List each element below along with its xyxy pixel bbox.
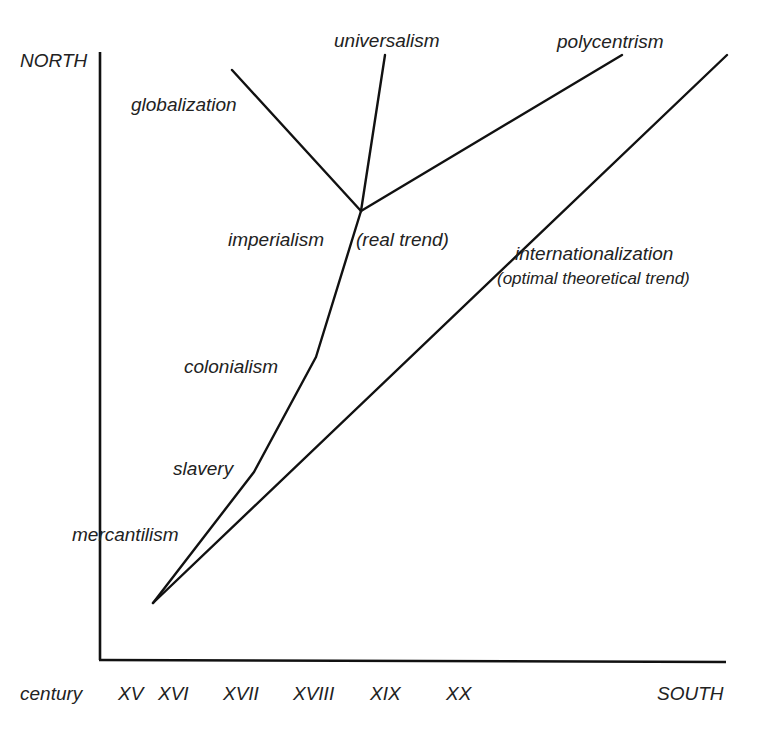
universalism-branch xyxy=(361,55,385,211)
tick-xv: XV xyxy=(117,683,146,704)
tick-xviii: XVIII xyxy=(292,683,335,704)
imperialism-label: imperialism xyxy=(228,229,324,250)
tick-xvi: XVI xyxy=(157,683,189,704)
mercantilism-label: mercantilism xyxy=(72,524,179,545)
south-label: SOUTH xyxy=(657,683,724,704)
tick-xix: XIX xyxy=(369,683,402,704)
polycentrism-branch xyxy=(361,55,622,211)
x-axis-south xyxy=(99,660,726,662)
real-trend-line xyxy=(153,211,361,603)
universalism-label: universalism xyxy=(334,30,440,51)
globalization-label: globalization xyxy=(131,94,237,115)
internationalization-label: internationalization xyxy=(515,243,673,264)
tick-xx: XX xyxy=(445,683,473,704)
century-label: century xyxy=(20,683,84,704)
slavery-label: slavery xyxy=(173,458,235,479)
tick-xvii: XVII xyxy=(222,683,260,704)
north-label: NORTH xyxy=(20,50,87,71)
internationalization-line xyxy=(153,55,727,603)
north-south-trend-diagram: NORTH SOUTH century XV XVI XVII XVIII XI… xyxy=(0,0,765,737)
globalization-branch xyxy=(232,70,361,211)
polycentrism-label: polycentrism xyxy=(556,31,664,52)
optimal-trend-label: (optimal theoretical trend) xyxy=(497,269,690,288)
real-trend-label: (real trend) xyxy=(356,229,449,250)
colonialism-label: colonialism xyxy=(184,356,278,377)
